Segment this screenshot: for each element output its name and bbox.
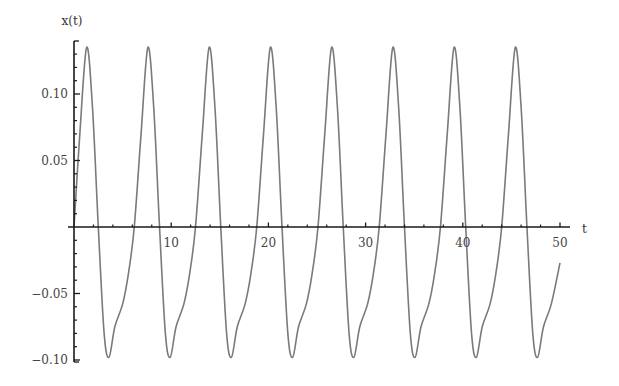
- y-axis-label: x(t): [62, 14, 83, 28]
- x-tick-label: 50: [552, 236, 567, 250]
- x-tick-label: 20: [261, 236, 276, 250]
- x-tick-label: 10: [164, 236, 179, 250]
- y-tick-label: −0.10: [31, 353, 68, 367]
- x-tick-label: 40: [455, 236, 470, 250]
- axes: 1020304050 −0.10−0.050.050.10 t x(t): [31, 14, 587, 367]
- y-axis-ticks: −0.10−0.050.050.10: [31, 41, 80, 367]
- x-axis-label: t: [582, 222, 587, 236]
- line-chart: 1020304050 −0.10−0.050.050.10 t x(t): [0, 0, 619, 386]
- series-x-of-t: [74, 47, 560, 357]
- y-tick-label: 0.05: [41, 154, 68, 168]
- series-line: [74, 47, 560, 357]
- x-tick-label: 30: [358, 236, 373, 250]
- y-tick-label: −0.05: [31, 287, 68, 301]
- y-tick-label: 0.10: [41, 87, 68, 101]
